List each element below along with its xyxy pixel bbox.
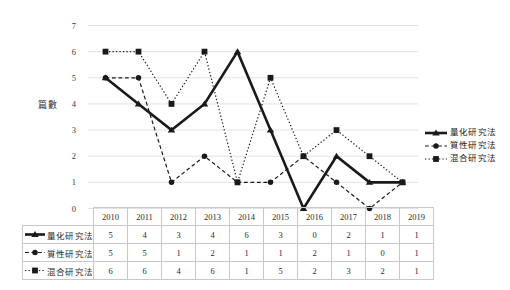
table-row-label: 量化研究法 [46, 229, 93, 241]
table-cell: 1 [332, 244, 366, 262]
table-cell: 4 [196, 226, 230, 244]
y-axis-tick-1: 1 [62, 177, 76, 187]
table-corner-cell [23, 208, 94, 226]
table-cell: 4 [128, 226, 162, 244]
table-col-header-2018: 2018 [366, 208, 400, 226]
plot-area: 01234567 篇數 [0, 0, 510, 215]
table-cell: 0 [298, 226, 332, 244]
table-row-label: 混合研究法 [46, 265, 93, 277]
table-row-header-inner: 質性研究法 [24, 247, 93, 259]
data-point-marker [202, 49, 208, 55]
table-col-header-2016: 2016 [298, 208, 332, 226]
table-col-header-2011: 2011 [128, 208, 162, 226]
data-point-marker [400, 179, 406, 185]
y-axis-tick-2: 2 [62, 151, 76, 161]
table-col-header-2019: 2019 [400, 208, 434, 226]
chart-canvas [0, 0, 510, 215]
legend-marker-sample [433, 143, 439, 149]
table-header: 2010201120122013201420152016201720182019 [23, 208, 434, 226]
table-row-header: 量化研究法 [23, 226, 94, 244]
table-header-row: 2010201120122013201420152016201720182019 [23, 208, 434, 226]
data-point-marker [169, 101, 175, 107]
table-cell: 5 [264, 262, 298, 280]
y-axis-title: 篇數 [38, 98, 57, 111]
table-cell: 4 [162, 262, 196, 280]
table-cell: 2 [332, 226, 366, 244]
table-col-header-2010: 2010 [94, 208, 128, 226]
data-point-marker [301, 153, 307, 159]
series-line [106, 78, 403, 209]
table-col-header-2013: 2013 [196, 208, 230, 226]
table-row: 量化研究法5434630211 [23, 226, 434, 244]
y-axis-tick-4: 4 [62, 99, 76, 109]
table-square-icon [24, 265, 46, 276]
table-cell: 1 [400, 244, 434, 262]
legend-item-label: 混合研究法 [448, 151, 496, 163]
table-cell: 1 [400, 226, 434, 244]
series-line [106, 52, 403, 183]
legend-item-3[interactable]: 混合研究法 [424, 150, 508, 163]
table-cell: 1 [162, 244, 196, 262]
data-point-marker [334, 127, 340, 133]
data-point-marker [334, 180, 340, 186]
table-cell: 0 [366, 244, 400, 262]
table-cell: 5 [128, 244, 162, 262]
data-point-marker [169, 180, 175, 186]
legend-square-icon [424, 151, 448, 163]
data-point-marker [202, 153, 208, 159]
table-row-label: 質性研究法 [46, 247, 93, 259]
table-row: 質性研究法5512112101 [23, 244, 434, 262]
data-point-marker [103, 75, 109, 81]
chart-figure: 01234567 篇數 量化研究法質性研究法混合研究法 201020112012… [0, 0, 510, 290]
table-cell: 6 [230, 226, 264, 244]
table-row-header-inner: 混合研究法 [24, 265, 93, 277]
legend-marker-sample [32, 268, 38, 274]
table-cell: 1 [230, 262, 264, 280]
table-cell: 2 [366, 262, 400, 280]
y-axis-tick-5: 5 [62, 73, 76, 83]
legend-circle-icon [424, 138, 448, 150]
data-point-marker [103, 49, 109, 55]
legend-item-label: 量化研究法 [448, 125, 496, 137]
table-row-header: 混合研究法 [23, 262, 94, 280]
legend-marker-sample [433, 156, 439, 162]
legend-item-label: 質性研究法 [448, 138, 496, 150]
series-2 [103, 75, 406, 211]
table-cell: 3 [332, 262, 366, 280]
chart-legend: 量化研究法質性研究法混合研究法 [424, 124, 508, 163]
data-point-marker [268, 180, 274, 186]
table-cell: 1 [400, 262, 434, 280]
y-axis-tick-3: 3 [62, 125, 76, 135]
table-row: 混合研究法6646152321 [23, 262, 434, 280]
table-row-header: 質性研究法 [23, 244, 94, 262]
table-cell: 5 [94, 226, 128, 244]
data-point-marker [268, 75, 274, 81]
table-col-header-2015: 2015 [264, 208, 298, 226]
table-col-header-2014: 2014 [230, 208, 264, 226]
y-axis-tick-7: 7 [62, 21, 76, 31]
table-triangle-icon [24, 229, 46, 240]
table-cell: 1 [264, 244, 298, 262]
data-point-marker [136, 49, 142, 55]
table-cell: 1 [366, 226, 400, 244]
legend-item-2[interactable]: 質性研究法 [424, 137, 508, 150]
table-col-header-2012: 2012 [162, 208, 196, 226]
series-3 [103, 49, 406, 186]
table-cell: 6 [196, 262, 230, 280]
legend-item-1[interactable]: 量化研究法 [424, 124, 508, 137]
table-cell: 5 [94, 244, 128, 262]
table-col-header-2017: 2017 [332, 208, 366, 226]
legend-triangle-icon [424, 125, 448, 137]
table-circle-icon [24, 247, 46, 258]
table-cell: 2 [298, 244, 332, 262]
legend-marker-sample [32, 250, 38, 256]
table-cell: 3 [264, 226, 298, 244]
table-cell: 6 [94, 262, 128, 280]
table-cell: 6 [128, 262, 162, 280]
data-table: 2010201120122013201420152016201720182019… [22, 207, 434, 280]
data-point-marker [136, 75, 142, 81]
table-body: 量化研究法5434630211質性研究法5512112101混合研究法66461… [23, 226, 434, 280]
y-axis-tick-6: 6 [62, 47, 76, 57]
table-cell: 1 [230, 244, 264, 262]
table-cell: 2 [298, 262, 332, 280]
